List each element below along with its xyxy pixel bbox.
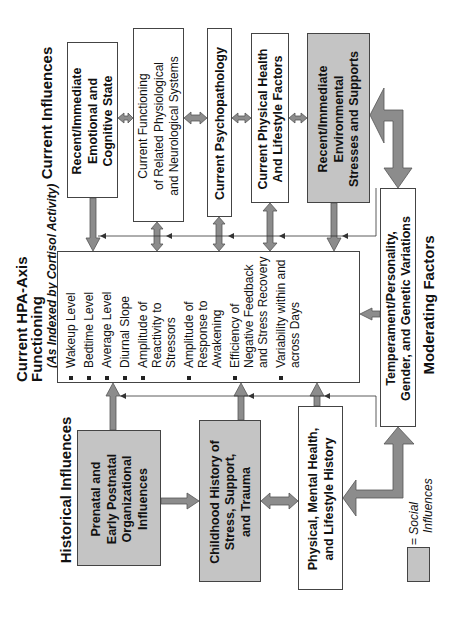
moderating-factors-heading: Moderating Factors (418, 225, 440, 385)
legend-text-social: Social (407, 502, 421, 535)
arrow-temperament-to-hpa (360, 308, 380, 320)
arrow-psychopathology-hpa (213, 217, 225, 251)
legend-social-swatch (407, 547, 430, 582)
box-line: And Lifestyle Factors (271, 34, 287, 204)
box-line: and Neurological Systems (167, 29, 183, 223)
box-environmental-stresses-supports: Recent/Immediate Environmental Stresses … (307, 33, 370, 203)
box-line: Childhood History of (208, 421, 224, 583)
box-line: of Related Physiological (152, 29, 168, 223)
box-line: Current Physical Health (256, 34, 272, 204)
arrow-childhood-history (261, 493, 298, 509)
arrow-prenatal-to-childhood (161, 493, 199, 509)
box-line: Current Psychopathology (213, 29, 229, 218)
arrow-emotional-physiological (118, 113, 133, 123)
measure-item: Amplitude of Reactivity to Stressors (136, 278, 178, 380)
arrow-childhood-to-hpa (234, 383, 248, 420)
box-line: Stresses and Supports (347, 34, 363, 204)
legend-text-influences: Influences (421, 465, 435, 545)
box-line: Influences (136, 431, 152, 567)
box-childhood-history: Childhood History of Stress, Support, an… (199, 420, 261, 582)
box-line: Recent/Immediate (70, 43, 86, 199)
arrow-history-to-hpa (310, 383, 324, 406)
hpa-title-block: Current HPA-Axis Functioning (As Indexed… (20, 167, 54, 382)
box-physical-mental-lifestyle-history: Physical, Mental Health, and Lifestyle H… (298, 406, 343, 590)
hpa-measures-list: Wakeup Level Bedtime Level Average Level… (64, 256, 306, 380)
hpa-title: Current HPA-Axis Functioning (14, 167, 45, 382)
box-physiological-neurological: Current Functioning of Related Physiolog… (133, 28, 184, 222)
measure-item: Bedtime Level (82, 250, 96, 380)
measure-item: Amplitude of Response to Awakening (182, 278, 224, 380)
box-line: and Lifestyle History (322, 407, 338, 591)
measure-item: Efficiency of Negative Feedback and Stre… (228, 256, 270, 380)
box-line: Stress, Support, (223, 421, 239, 583)
box-line: Temperament/Personality, (384, 189, 400, 428)
legend-equals: = (407, 535, 421, 545)
box-line: Environmental (332, 34, 348, 204)
box-line: Physical, Mental Health, (306, 407, 322, 591)
box-line: Recent/Immediate (316, 34, 332, 204)
box-current-psychopathology: Current Psychopathology (207, 28, 232, 217)
box-prenatal-postnatal: Prenatal and Early Postnatal Organizatio… (77, 430, 161, 566)
arrow-environmental-temperament (370, 88, 412, 188)
box-line: and Trauma (239, 421, 255, 583)
measure-item: Variability within and across Days (274, 250, 302, 380)
box-physical-health-lifestyle: Current Physical Health And Lifestyle Fa… (251, 33, 289, 203)
box-line: Gender, and Genetic Variations (399, 189, 415, 428)
arrow-temperament-history (343, 427, 414, 516)
arrow-prenatal-to-hpa (106, 383, 120, 430)
historical-influences-heading: Historical Influences (55, 400, 77, 580)
arrow-emotional-to-hpa (86, 198, 100, 251)
box-temperament-gender-genetics: Temperament/Personality, Gender, and Gen… (380, 188, 416, 427)
measure-item: Wakeup Level (64, 250, 78, 380)
arrow-physiological-hpa (151, 222, 163, 251)
box-line: Current Functioning (136, 29, 152, 223)
box-line: Prenatal and (89, 431, 105, 567)
box-line: Early Postnatal (105, 431, 121, 567)
arrow-psychopathology-physicalhealth (232, 113, 251, 123)
arrow-physiological-psychopathology (184, 112, 207, 124)
box-line: Cognitive State (101, 43, 117, 199)
box-line: Emotional and (86, 43, 102, 199)
arrow-environmental-to-hpa (327, 203, 341, 251)
box-line: Organizational (120, 431, 136, 567)
arrow-physicalhealth-hpa (263, 203, 277, 251)
arrow-physicalhealth-environmental (289, 113, 307, 123)
box-hpa-measures: Wakeup Level Bedtime Level Average Level… (57, 251, 360, 383)
legend-label: = Social Influences (405, 465, 437, 545)
measure-item: Average Level (100, 250, 114, 380)
box-emotional-cognitive-state: Recent/Immediate Emotional and Cognitive… (67, 42, 118, 198)
measure-item: Diurnal Slope (118, 250, 132, 380)
